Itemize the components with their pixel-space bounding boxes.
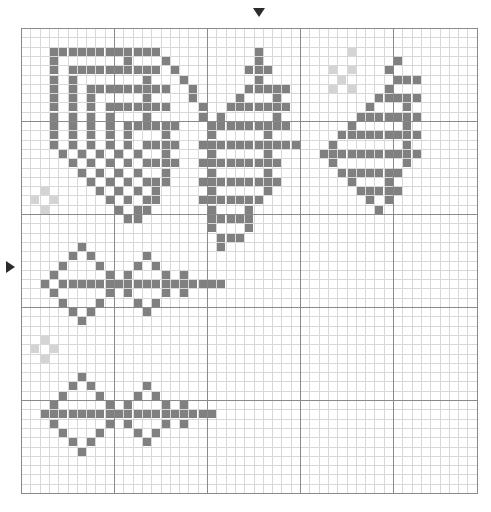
pattern-chart-page [0, 0, 491, 512]
cross-stitch-pattern-grid[interactable] [0, 0, 491, 512]
